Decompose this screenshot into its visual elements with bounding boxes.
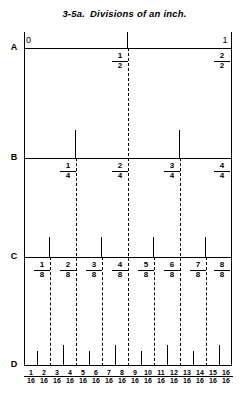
tick-sixteenth-1 bbox=[37, 351, 38, 365]
label-11-16: 1116 bbox=[154, 369, 168, 385]
tick-eighth-7 bbox=[205, 237, 206, 257]
label-5-8: 58 bbox=[138, 261, 154, 279]
label-3-4: 3 4 bbox=[164, 162, 180, 180]
label-1-8: 18 bbox=[34, 261, 50, 279]
label-1-16: 116 bbox=[24, 369, 38, 385]
label-4-4: 4 4 bbox=[214, 162, 230, 180]
figure-number: 3-5a. bbox=[62, 8, 85, 19]
dashline-eighth-1 bbox=[50, 257, 51, 366]
label-4-8: 48 bbox=[112, 261, 128, 279]
tick-sixteenth-4 bbox=[115, 345, 116, 365]
divisions-of-an-inch-figure: 3-5a.Divisions of an inch. A B C D 0 1 1… bbox=[0, 0, 249, 410]
label-9-16: 916 bbox=[128, 369, 142, 385]
tick-sixteenth-5 bbox=[141, 351, 142, 365]
dashline-quarter-3 bbox=[180, 158, 181, 366]
dashline-eighth-5 bbox=[154, 257, 155, 366]
figure-caption: Divisions of an inch. bbox=[90, 8, 187, 19]
label-1-4: 1 4 bbox=[60, 162, 76, 180]
label-6-8: 68 bbox=[164, 261, 180, 279]
frame-right-border bbox=[231, 32, 232, 366]
label-14-16: 1416 bbox=[193, 369, 207, 385]
row-label-c: C bbox=[8, 251, 20, 261]
tick-quarter-3 bbox=[179, 130, 180, 158]
label-15-16: 1516 bbox=[206, 369, 220, 385]
label-8-16: 816 bbox=[115, 369, 129, 385]
tick-sixteenth-7 bbox=[193, 351, 194, 365]
label-7-16: 716 bbox=[102, 369, 116, 385]
label-2-16: 216 bbox=[37, 369, 51, 385]
tick-sixteenth-6 bbox=[167, 345, 168, 365]
label-8-8: 88 bbox=[214, 261, 230, 279]
label-2-8: 28 bbox=[60, 261, 76, 279]
label-3-8: 38 bbox=[86, 261, 102, 279]
tick-half bbox=[127, 32, 128, 48]
row-label-b: B bbox=[8, 152, 20, 162]
label-2-4: 2 4 bbox=[112, 162, 128, 180]
label-10-16: 1016 bbox=[141, 369, 155, 385]
label-16-16: 1616 bbox=[219, 369, 233, 385]
tick-quarter-1 bbox=[75, 130, 76, 158]
label-7-8: 78 bbox=[190, 261, 206, 279]
tick-eighth-1 bbox=[49, 237, 50, 257]
figure-title: 3-5a.Divisions of an inch. bbox=[0, 8, 249, 19]
tick-sixteenth-2 bbox=[63, 345, 64, 365]
label-6-16: 616 bbox=[89, 369, 103, 385]
frame-left-border bbox=[24, 32, 25, 366]
dashline-quarter-1 bbox=[76, 158, 77, 366]
label-4-16: 416 bbox=[63, 369, 77, 385]
tick-eighth-5 bbox=[153, 237, 154, 257]
tick-sixteenth-3 bbox=[89, 351, 90, 365]
tick-eighth-3 bbox=[101, 237, 102, 257]
dashline-half bbox=[128, 48, 129, 366]
label-12-16: 1216 bbox=[167, 369, 181, 385]
label-5-16: 516 bbox=[76, 369, 90, 385]
label-1-2: 1 2 bbox=[112, 52, 128, 70]
label-13-16: 1316 bbox=[180, 369, 194, 385]
label-zero: 0 bbox=[26, 35, 40, 45]
row-label-a: A bbox=[8, 42, 20, 52]
label-2-2: 2 2 bbox=[214, 52, 230, 70]
tick-sixteenth-8 bbox=[219, 345, 220, 365]
label-one-whole: 1 bbox=[218, 35, 232, 45]
label-3-16: 316 bbox=[50, 369, 64, 385]
row-label-d: D bbox=[8, 359, 20, 369]
dashline-eighth-3 bbox=[102, 257, 103, 366]
dashline-eighth-7 bbox=[206, 257, 207, 366]
